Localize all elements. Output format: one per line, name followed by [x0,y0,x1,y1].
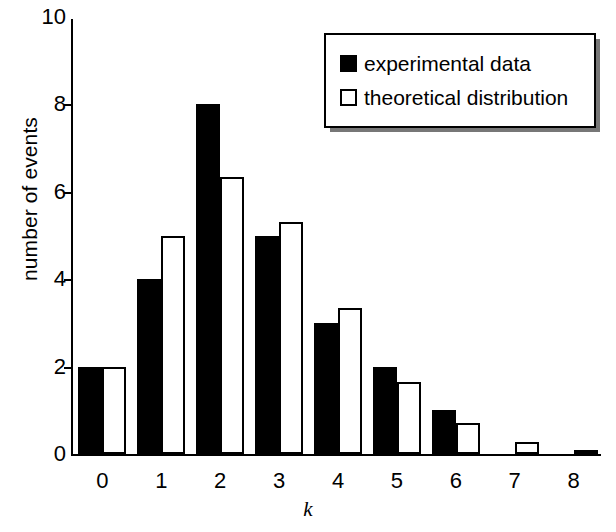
bar-theoretical-k4 [338,308,362,454]
legend-item-label: experimental data [364,53,531,74]
y-tick-label: 0 [54,441,66,467]
x-tick-label: 0 [96,468,108,494]
y-tick-label: 4 [54,266,66,292]
x-tick-label: 4 [332,468,344,494]
bar-theoretical-k0 [102,367,126,454]
bar-experimental-k5 [373,367,397,454]
bar-experimental-k3 [255,236,279,455]
x-tick-label: 8 [567,468,579,494]
x-axis-title: k [0,497,616,522]
y-tick-label: 8 [54,91,66,117]
legend-item-theoretical-distribution: theoretical distribution [340,80,580,114]
bar-theoretical-k7 [515,442,539,454]
legend-item-label: theoretical distribution [364,87,568,108]
bar-theoretical-k6 [456,423,480,454]
x-tick-label: 1 [155,468,167,494]
x-tick-label: 2 [214,468,226,494]
bar-theoretical-k2 [220,177,244,454]
bar-experimental-k6 [432,410,456,454]
bar-experimental-k0 [78,367,102,454]
x-tick-label: 3 [273,468,285,494]
y-tick-label: 6 [54,179,66,205]
y-axis-title: number of events [18,69,42,329]
y-tick-label: 10 [42,4,66,30]
bar-theoretical-k8 [574,450,598,454]
open-square-icon [340,89,357,106]
filled-square-icon [340,55,357,72]
legend-item-experimental-data: experimental data [340,46,580,80]
chart-figure: number of events k 0246810 012345678 exp… [0,0,616,532]
bar-theoretical-k5 [397,382,421,454]
bar-experimental-k4 [314,323,338,454]
bar-experimental-k2 [196,104,220,454]
x-tick-label: 5 [391,468,403,494]
bar-theoretical-k3 [279,222,303,454]
bar-theoretical-k1 [161,236,185,455]
x-tick-label: 7 [509,468,521,494]
x-tick-label: 6 [450,468,462,494]
chart-legend: experimental data theoretical distributi… [324,33,596,128]
bar-experimental-k1 [137,279,161,454]
y-tick-label: 2 [54,354,66,380]
